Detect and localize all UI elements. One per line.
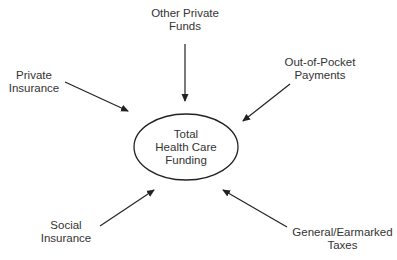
arrow-social-insurance: [100, 190, 154, 226]
label-line: Insurance: [4, 82, 64, 95]
label-line: Social: [36, 219, 96, 232]
arrow-out-of-pocket-payments: [243, 84, 290, 121]
label-line: Insurance: [36, 232, 96, 245]
label-line: Payments: [275, 69, 365, 82]
center-line-3: Funding: [136, 154, 236, 167]
label-line: Funds: [140, 20, 230, 33]
label-private-insurance: Private Insurance: [4, 69, 64, 95]
center-line-2: Health Care: [136, 141, 236, 154]
label-out-of-pocket-payments: Out-of-Pocket Payments: [275, 56, 365, 82]
label-social-insurance: Social Insurance: [36, 219, 96, 245]
label-line: Out-of-Pocket: [275, 56, 365, 69]
arrow-private-insurance: [65, 82, 128, 111]
center-label: Total Health Care Funding: [136, 128, 236, 167]
label-line: Private: [4, 69, 64, 82]
label-general-earmarked-taxes: General/Earmarked Taxes: [290, 226, 395, 252]
label-line: General/Earmarked: [290, 226, 395, 239]
arrow-general-earmarked-taxes: [223, 190, 287, 227]
label-line: Taxes: [290, 239, 395, 252]
funding-diagram: Total Health Care Funding Other Private …: [0, 0, 397, 260]
label-line: Other Private: [140, 7, 230, 20]
label-other-private-funds: Other Private Funds: [140, 7, 230, 33]
center-line-1: Total: [136, 128, 236, 141]
